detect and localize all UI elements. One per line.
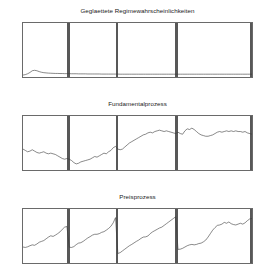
x-minor-tick-mark — [247, 263, 248, 264]
x-tick-mark — [194, 263, 195, 264]
x-minor-tick-mark — [111, 263, 112, 264]
x-minor-tick-mark — [143, 77, 144, 78]
x-minor-tick-mark — [60, 77, 61, 78]
x-minor-tick-mark — [157, 77, 158, 78]
x-minor-tick-mark — [245, 263, 246, 264]
x-minor-tick-mark — [46, 170, 47, 171]
x-minor-tick-mark — [118, 263, 119, 264]
x-tick-mark — [44, 77, 45, 78]
x-minor-tick-mark — [69, 170, 70, 171]
x-tick-mark — [148, 263, 149, 264]
x-minor-tick-mark — [58, 77, 59, 78]
y-tick-mark — [22, 66, 23, 67]
x-minor-tick-mark — [222, 263, 223, 264]
x-tick-mark — [55, 77, 56, 78]
x-minor-tick-mark — [176, 77, 177, 78]
x-minor-tick-mark — [109, 77, 110, 78]
x-minor-tick-mark — [201, 77, 202, 78]
x-minor-tick-mark — [199, 170, 200, 171]
x-minor-tick-mark — [190, 263, 191, 264]
x-tick-mark — [183, 170, 184, 171]
x-minor-tick-mark — [180, 77, 181, 78]
x-minor-tick-mark — [104, 170, 105, 171]
x-minor-tick-mark — [85, 77, 86, 78]
x-minor-tick-mark — [243, 263, 244, 264]
x-minor-tick-mark — [208, 263, 209, 264]
x-minor-tick-mark — [88, 170, 89, 171]
y-tick-mark — [22, 23, 23, 24]
x-minor-tick-mark — [166, 77, 167, 78]
x-tick-mark — [67, 77, 68, 78]
x-minor-tick-mark — [81, 263, 82, 264]
x-minor-tick-mark — [35, 170, 36, 171]
x-minor-tick-mark — [30, 77, 31, 78]
y-tick-mark — [22, 209, 23, 210]
x-minor-tick-mark — [173, 170, 174, 171]
x-minor-tick-mark — [95, 263, 96, 264]
x-minor-tick-mark — [51, 77, 52, 78]
x-minor-tick-mark — [129, 263, 130, 264]
x-minor-tick-mark — [25, 77, 26, 78]
x-minor-tick-mark — [116, 77, 117, 78]
x-minor-tick-mark — [196, 77, 197, 78]
x-minor-tick-mark — [213, 170, 214, 171]
x-minor-tick-mark — [35, 77, 36, 78]
x-minor-tick-mark — [97, 263, 98, 264]
x-tick-mark — [206, 77, 207, 78]
x-minor-tick-mark — [157, 263, 158, 264]
x-minor-tick-mark — [76, 77, 77, 78]
x-minor-tick-mark — [162, 263, 163, 264]
x-minor-tick-mark — [210, 170, 211, 171]
x-minor-tick-mark — [139, 170, 140, 171]
x-minor-tick-mark — [210, 263, 211, 264]
x-minor-tick-mark — [92, 77, 93, 78]
x-minor-tick-mark — [187, 77, 188, 78]
x-minor-tick-mark — [35, 263, 36, 264]
x-minor-tick-mark — [227, 170, 228, 171]
x-minor-tick-mark — [146, 77, 147, 78]
y-tick-mark — [22, 241, 23, 242]
x-minor-tick-mark — [162, 170, 163, 171]
x-minor-tick-mark — [139, 263, 140, 264]
x-minor-tick-mark — [250, 263, 251, 264]
x-minor-tick-mark — [173, 263, 174, 264]
x-minor-tick-mark — [85, 263, 86, 264]
x-tick-mark — [90, 77, 91, 78]
x-minor-tick-mark — [51, 263, 52, 264]
x-minor-tick-mark — [85, 170, 86, 171]
x-minor-tick-mark — [30, 263, 31, 264]
x-minor-tick-mark — [233, 77, 234, 78]
x-minor-tick-mark — [201, 170, 202, 171]
x-minor-tick-mark — [164, 77, 165, 78]
plot-area: 0.1.2.3.4.551015202530354045505560657075… — [22, 22, 253, 78]
x-minor-tick-mark — [122, 170, 123, 171]
x-minor-tick-mark — [92, 263, 93, 264]
x-minor-tick-mark — [39, 170, 40, 171]
x-minor-tick-mark — [116, 170, 117, 171]
x-minor-tick-mark — [37, 77, 38, 78]
x-minor-tick-mark — [95, 170, 96, 171]
x-tick-mark — [125, 170, 126, 171]
x-minor-tick-mark — [143, 170, 144, 171]
x-minor-tick-mark — [141, 263, 142, 264]
x-tick-mark — [32, 170, 33, 171]
plot-area: 5101520253051015202530354045505560657075… — [22, 208, 253, 264]
x-minor-tick-mark — [224, 77, 225, 78]
x-tick-mark — [171, 77, 172, 78]
x-minor-tick-mark — [157, 170, 158, 171]
x-tick-mark — [32, 263, 33, 264]
x-minor-tick-mark — [178, 170, 179, 171]
x-minor-tick-mark — [25, 170, 26, 171]
x-minor-tick-mark — [72, 77, 73, 78]
x-minor-tick-mark — [176, 263, 177, 264]
x-tick-mark — [125, 263, 126, 264]
x-minor-tick-mark — [153, 170, 154, 171]
x-minor-tick-mark — [62, 170, 63, 171]
x-minor-tick-mark — [88, 77, 89, 78]
x-minor-tick-mark — [48, 170, 49, 171]
x-tick-mark — [148, 77, 149, 78]
x-minor-tick-mark — [227, 77, 228, 78]
y-tick-mark — [22, 33, 23, 34]
x-minor-tick-mark — [187, 263, 188, 264]
x-minor-tick-mark — [132, 170, 133, 171]
